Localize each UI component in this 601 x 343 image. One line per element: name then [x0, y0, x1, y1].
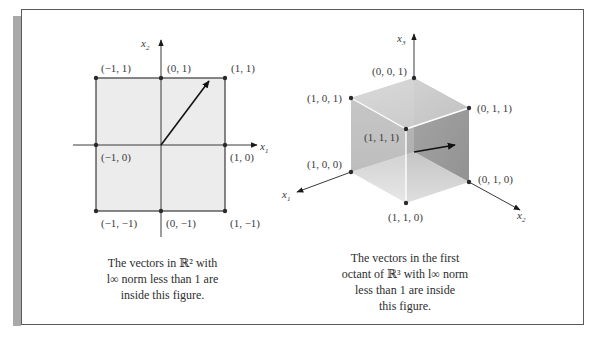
- point-label: (−1, 1): [101, 62, 131, 75]
- caption-line: The vectors in ℝ² with: [100, 255, 225, 271]
- caption-3d: The vectors in the first octant of ℝ³ wi…: [330, 250, 480, 314]
- x1-axis-label-3d: x1: [281, 188, 290, 203]
- point-label: (0, 1, 1): [477, 102, 512, 115]
- point-label: (0, 1): [167, 62, 191, 75]
- x2-axis-3d: [469, 182, 520, 210]
- point-label: (1, −1): [230, 217, 260, 230]
- figure-2d-square: x2 x1 (−1, 1) (0, 1) (1, 1) (−1, 0) (1, …: [73, 37, 268, 237]
- x2-axis-label: x2: [140, 37, 150, 52]
- point-label: (−1, 0): [101, 151, 131, 164]
- x1-axis-label: x1: [259, 140, 268, 155]
- point-label: (1, 0, 1): [307, 92, 342, 105]
- caption-line: octant of ℝ³ with l∞ norm: [330, 266, 480, 282]
- caption-2d: The vectors in ℝ² with l∞ norm less than…: [100, 255, 225, 303]
- caption-line: inside this figure.: [100, 287, 225, 303]
- x2-axis-label-3d: x2: [516, 209, 526, 224]
- point-label: (−1, −1): [101, 217, 138, 230]
- point-label: (0, 1, 0): [478, 173, 513, 186]
- caption-line: this figure.: [330, 298, 480, 314]
- point-label: (0, 0, 1): [372, 65, 407, 78]
- caption-line: l∞ norm less than 1 are: [100, 271, 225, 287]
- point-label: (1, 1, 0): [388, 211, 423, 224]
- point-label: (1, 0): [230, 151, 254, 164]
- caption-line: less than 1 are inside: [330, 282, 480, 298]
- caption-line: The vectors in the first: [330, 250, 480, 266]
- x3-axis-label: x3: [396, 32, 406, 47]
- point-label: (1, 1, 1): [364, 131, 399, 144]
- figure-canvas: x2 x1 (−1, 1) (0, 1) (1, 1) (−1, 0) (1, …: [0, 0, 601, 343]
- figure-3d-cube: x3 x1 x2 (0, 0, 1) (1, 0, 1) (0, 1, 1) (…: [281, 32, 526, 224]
- point-label: (1, 1): [231, 62, 255, 75]
- point-label: (0, −1): [166, 217, 196, 230]
- point-label: (1, 0, 0): [307, 158, 342, 171]
- x1-axis-3d: [297, 172, 351, 192]
